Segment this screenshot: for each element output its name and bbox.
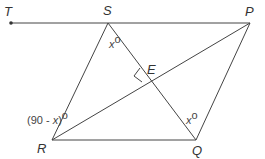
label-E: E — [147, 62, 156, 77]
segment-RP — [52, 23, 250, 140]
segment-SQ — [108, 23, 196, 140]
point-T-dot — [9, 21, 13, 25]
segment-QP — [196, 23, 250, 140]
geometry-diagram: T S P E R Q xo xo (90 - x)o — [0, 0, 265, 159]
angle-S-label: xo — [108, 33, 121, 50]
right-angle-marker — [134, 68, 142, 82]
label-R: R — [37, 141, 46, 156]
label-T: T — [4, 4, 13, 19]
label-Q: Q — [192, 143, 202, 158]
label-P: P — [245, 4, 254, 19]
angle-Q-label: xo — [185, 109, 198, 126]
angle-R-label: (90 - x)o — [27, 109, 68, 126]
label-S: S — [103, 3, 112, 18]
